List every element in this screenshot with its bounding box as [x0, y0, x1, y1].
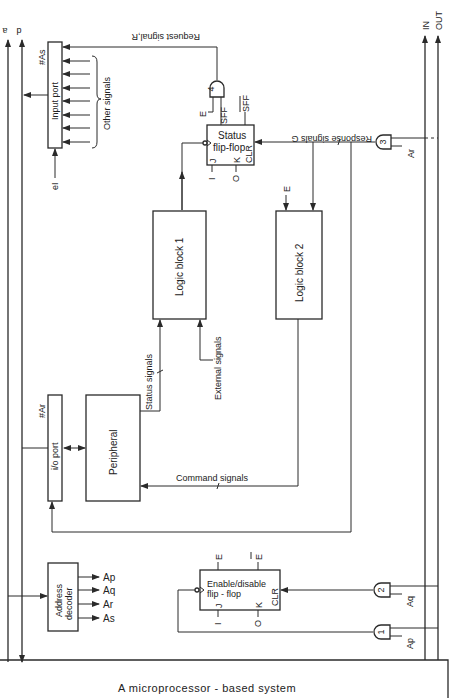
logic-block-1-label: Logic block 1 — [174, 237, 185, 296]
gate-3-label: 3 — [378, 139, 388, 144]
gate-3-ar-label: Ar — [406, 149, 416, 158]
ei-label: eI — [50, 182, 60, 190]
status-ff-k: K — [232, 157, 242, 163]
request-signal-label: Request signal,R — [131, 32, 200, 42]
io-port-address: #Ar — [37, 404, 47, 418]
input-port-address: #As — [37, 49, 47, 65]
enable-ff-line1: Enable/disable — [207, 579, 266, 589]
status-ff-zero: O — [231, 175, 241, 182]
decoder-output-ar: Ar — [103, 599, 114, 610]
enable-ff-zero: O — [253, 620, 263, 627]
out-label: OUT — [434, 11, 444, 31]
microprocessor-system-diagram: a d IN OUT A microprocessor - based syst… — [0, 0, 462, 698]
caption: A microprocessor - based system — [118, 682, 296, 694]
status-ff-clr: CLR — [244, 144, 254, 163]
external-signals-label: External signals — [213, 336, 223, 400]
enable-ff-ebar-label: E — [254, 554, 264, 560]
gate-4-label: 4 — [206, 86, 216, 91]
peripheral-label: Peripheral — [108, 429, 119, 475]
status-signals-label: Status signals — [144, 353, 154, 410]
bus-a-label: a — [2, 26, 7, 36]
status-ff-clock-bubble — [203, 141, 207, 145]
other-signals-brace — [92, 56, 101, 148]
enable-ff-j: J — [214, 604, 224, 609]
status-ff-sffbar: SFF — [241, 94, 251, 112]
status-ff-line2: flip-flop — [213, 142, 246, 153]
decoder-output-as: As — [103, 613, 115, 624]
response-signal-label: Response signals G — [291, 134, 372, 144]
logic2-e-label: E — [282, 186, 292, 192]
address-decoder-line2: decoder — [64, 587, 74, 620]
enable-ff-e-label: E — [214, 554, 224, 560]
enable-ff-one: I — [213, 622, 223, 625]
request-signal-line — [63, 47, 217, 80]
decoder-outputs — [78, 577, 99, 618]
logic-block-2-label: Logic block 2 — [294, 243, 305, 302]
enable-ff-clock-bubble — [195, 588, 199, 592]
gate-1-label: 1 — [376, 629, 386, 634]
decoder-output-ap: Ap — [103, 572, 116, 583]
enable-ff-k: K — [254, 602, 264, 608]
decoder-output-aq: Aq — [103, 585, 115, 596]
gate-2-aq-label: Aq — [405, 596, 415, 607]
bus-d-label: d — [16, 26, 21, 36]
other-signal-arrows — [63, 61, 90, 142]
enable-ff-clr: CLR — [270, 587, 280, 606]
external-signals-line — [200, 320, 213, 360]
gate-4-e-input — [208, 97, 213, 112]
command-signals-label: Command signals — [176, 473, 249, 483]
logic1-to-status-ff-clock — [182, 143, 203, 210]
in-label: IN — [421, 21, 431, 30]
gate-4-e-label: E — [198, 111, 208, 117]
io-port-label: i/o port — [50, 442, 60, 470]
status-ff-line1: Status — [218, 130, 246, 141]
status-ff-sff: SFF — [219, 106, 229, 124]
gate-2-label: 2 — [376, 587, 386, 592]
address-decoder-line1: Address — [54, 583, 64, 617]
enable-ff-line2: flip - flop — [207, 589, 241, 599]
status-ff-one: I — [207, 177, 217, 180]
input-port-label: Input port — [50, 81, 60, 120]
gate-1-ap-label: Ap — [405, 638, 415, 649]
status-ff-j: J — [208, 159, 218, 164]
other-signals-label: Other signals — [102, 76, 112, 130]
